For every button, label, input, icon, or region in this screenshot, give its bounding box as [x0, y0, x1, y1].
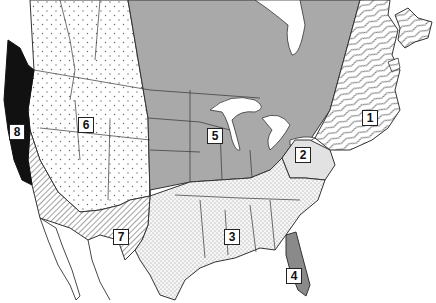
region-label-2: 2 — [295, 147, 311, 163]
region-label-1: 1 — [362, 110, 378, 126]
region-label-8: 8 — [9, 124, 25, 140]
region-1-newfoundland — [395, 8, 432, 48]
map-canvas — [0, 0, 436, 303]
region-label-4: 4 — [286, 268, 302, 284]
region-label-7: 7 — [113, 229, 129, 245]
region-label-6: 6 — [78, 117, 94, 133]
region-label-5: 5 — [207, 128, 223, 144]
region-4-area — [286, 232, 310, 296]
mexico-mainland-outline — [88, 240, 110, 300]
region-label-3: 3 — [224, 229, 240, 245]
north-america-region-map: 1 2 3 4 5 6 7 8 — [0, 0, 436, 303]
